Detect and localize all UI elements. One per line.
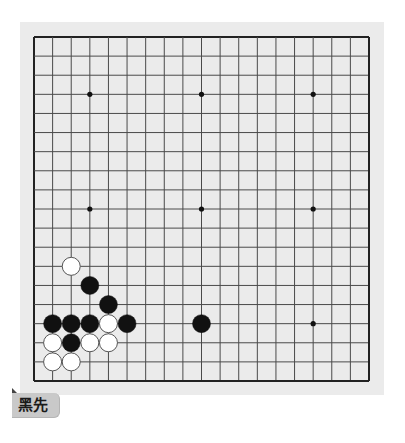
black-stone [62,315,80,333]
turn-indicator-text: 黑先 [18,396,48,414]
black-stone [118,315,136,333]
black-stone [99,296,117,314]
black-stone [81,315,99,333]
go-board[interactable] [20,22,384,395]
turn-indicator-badge: 黑先 [12,393,60,418]
white-stone [99,315,117,333]
black-stone [193,315,211,333]
star-point-icon [87,206,92,211]
star-point-icon [87,92,92,97]
black-stone [81,276,99,294]
white-stone [62,257,80,275]
star-point-icon [311,92,316,97]
star-point-icon [311,206,316,211]
white-stone [44,334,62,352]
star-point-icon [199,92,204,97]
white-stone [99,334,117,352]
go-board-grid[interactable] [20,22,384,395]
black-stone [44,315,62,333]
star-point-icon [199,206,204,211]
white-stone [44,353,62,371]
black-stone [62,334,80,352]
white-stone [81,334,99,352]
star-point-icon [311,321,316,326]
white-stone [62,353,80,371]
